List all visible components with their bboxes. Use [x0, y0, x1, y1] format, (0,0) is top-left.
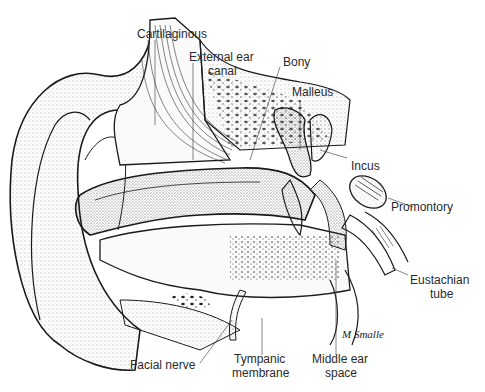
label-middle-ear-space-line2: space [325, 366, 357, 380]
label-tympanic-membrane-line1: Tympanic [234, 352, 285, 366]
label-bony: Bony [283, 55, 310, 69]
label-eustachian-tube-line1: Eustachian [410, 273, 469, 287]
label-eustachian-tube-line2: tube [430, 287, 453, 301]
promontory-shape [344, 169, 393, 215]
incus-shape [310, 115, 332, 161]
label-cartilaginous: Cartilaginous [137, 27, 207, 41]
label-middle-ear-space-line1: Middle ear [312, 352, 368, 366]
illustrator-signature: M Smalle [341, 328, 384, 340]
label-malleus: Malleus [292, 85, 333, 99]
label-tympanic-membrane-line2: membrane [232, 366, 289, 380]
label-external-ear-canal-line2: canal [208, 64, 237, 78]
label-external-ear-canal-line1: External ear [189, 50, 254, 64]
label-incus: Incus [351, 159, 380, 173]
label-promontory: Promontory [391, 200, 453, 214]
facial-nerve-shape [229, 290, 246, 340]
label-facial-nerve: Facial nerve [130, 358, 195, 372]
